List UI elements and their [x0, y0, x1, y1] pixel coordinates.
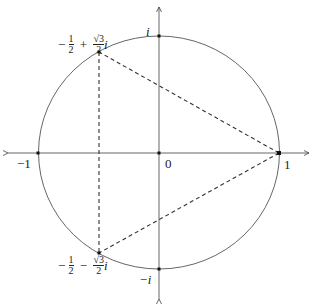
point-1 [277, 151, 281, 155]
edge-1-upper [99, 52, 279, 153]
label-i: i [146, 25, 150, 38]
label-upper-root: − 12 + √32i [58, 34, 108, 55]
label-neg-i: −i [139, 273, 151, 286]
edge-1-lower [99, 153, 279, 253]
point-origin [158, 152, 161, 155]
unit-circle-diagram [0, 0, 315, 305]
label-lower-root: − 12 − √32i [58, 255, 108, 276]
point-i [158, 35, 161, 38]
point-neg-1 [37, 152, 40, 155]
label-one: 1 [284, 158, 291, 171]
label-neg-one: −1 [17, 157, 31, 170]
label-origin: 0 [165, 157, 172, 170]
point-neg-i [158, 268, 161, 271]
